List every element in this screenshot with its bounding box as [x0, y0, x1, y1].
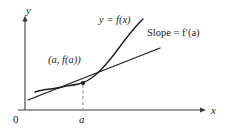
x-axis-label: x — [211, 105, 216, 116]
tangent-point-dot — [81, 81, 85, 85]
tangent-line-figure: y x 0 a y = f(x) Slope = f′(a) (a, f(a)) — [0, 0, 225, 138]
slope-annotation-label: Slope = f′(a) — [147, 28, 200, 39]
y-axis-label: y — [26, 5, 31, 16]
y-axis-group — [22, 16, 27, 111]
x-axis-arrowhead — [200, 107, 206, 112]
tangent-point-label: (a, f(a)) — [48, 55, 81, 66]
x-axis-tick-label-a: a — [79, 114, 85, 125]
y-axis-arrowhead — [22, 16, 27, 22]
origin-label: 0 — [13, 114, 19, 125]
curve-equation-label: y = f(x) — [99, 15, 131, 26]
x-axis-group — [18, 107, 206, 112]
